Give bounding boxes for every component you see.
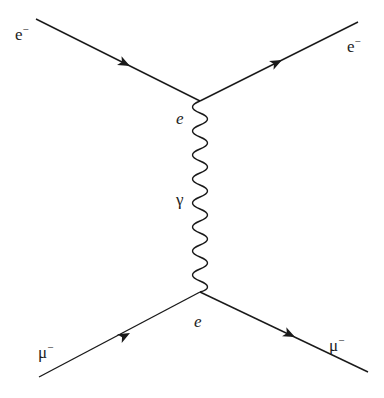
arrow-icon [269, 56, 284, 70]
photon-label: γ [175, 190, 184, 209]
outgoing-muon-label: μ− [329, 334, 344, 355]
outgoing-electron-label: e− [347, 35, 361, 56]
photon-propagator [193, 101, 208, 292]
feynman-diagram: e− e− e γ e μ− μ− [0, 0, 384, 398]
bottom-vertex-label: e [194, 312, 202, 331]
incoming-electron-line [36, 19, 200, 101]
incoming-muon-label: μ− [38, 341, 53, 362]
incoming-electron-label: e− [15, 23, 29, 44]
top-vertex-label: e [176, 109, 184, 128]
arrow-icon [117, 329, 132, 343]
outgoing-muon-line [200, 292, 368, 372]
arrow-icon [282, 327, 297, 341]
arrow-icon [117, 56, 132, 70]
